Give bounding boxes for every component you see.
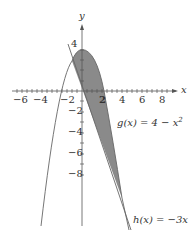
x-tick-label: 4: [119, 94, 125, 105]
y-tick-label: −2: [68, 105, 83, 116]
y-tick-label: −6: [68, 147, 83, 158]
y-tick-label: −4: [68, 126, 83, 137]
g-function-label: g(x) = 4 − x2: [117, 116, 183, 128]
x-axis-arrow-icon: [172, 89, 178, 93]
g-label-text: g(x) = 4 − x: [117, 117, 178, 128]
x-tick-label: 2: [99, 94, 106, 105]
x-axis-label: x: [181, 84, 187, 95]
x-tick-label: 6: [139, 94, 145, 105]
g-label-exponent: 2: [178, 116, 182, 124]
h-function-label: h(x) = −3x: [133, 214, 188, 225]
y-axis-arrow-icon: [80, 24, 84, 30]
y-axis-label: y: [79, 10, 85, 21]
x-tick-label: 8: [159, 94, 165, 105]
x-tick-label: −6: [13, 94, 28, 105]
x-tick-label: −4: [33, 94, 48, 105]
y-tick-label: −8: [68, 168, 83, 179]
x-tick-label: −2: [60, 94, 75, 105]
y-tick-label: 4: [71, 38, 77, 49]
